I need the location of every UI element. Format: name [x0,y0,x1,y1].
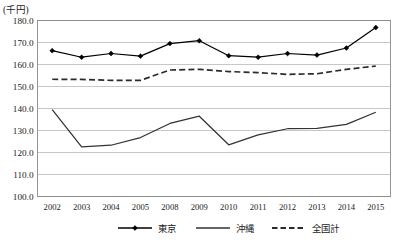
x-axis-tick-label: 2005 [132,202,149,212]
x-axis-tick-label: 2011 [250,202,267,212]
data-point-marker [256,55,261,60]
y-axis-tick-label: 120.0 [13,148,34,158]
y-axis-tick-label: 170.0 [13,38,34,48]
y-axis-tick-label: 100.0 [13,192,34,202]
data-point-marker [50,48,55,53]
x-axis-tick-label: 2015 [367,202,384,212]
x-axis-tick-label: 2014 [338,202,356,212]
data-point-marker [79,55,84,60]
x-axis-tick-label: 2009 [191,202,208,212]
line-chart: (千円) 100.0110.0120.0130.0140.0150.0160.0… [0,0,398,242]
legend-item-label: 全国計 [312,223,339,234]
data-series-layer [50,25,378,147]
data-point-marker [226,53,231,58]
y-axis-tick-label: 180.0 [13,16,34,26]
legend-item-label: 東京 [158,223,176,234]
x-axis-tick-label: 2013 [308,202,325,212]
chart-plot-area: 100.0110.0120.0130.0140.0150.0160.0170.0… [0,0,398,242]
data-point-marker [285,51,290,56]
data-point-marker [315,53,320,58]
y-axis-tick-label: 160.0 [13,60,34,70]
legend-item-label: 沖縄 [236,223,255,234]
y-axis-tick-label: 140.0 [13,104,34,114]
x-axis-tick-labels: 2002200320042005200820092010201120122013… [44,202,385,212]
data-point-marker [167,41,172,46]
y-axis-tick-label: 130.0 [13,126,34,136]
y-axis-tick-label: 150.0 [13,82,34,92]
data-point-marker [138,54,143,59]
legend-marker-swatch [133,226,138,231]
data-point-marker [109,51,114,56]
x-axis-tick-label: 2004 [102,202,120,212]
x-axis-tick-label: 2012 [279,202,296,212]
x-axis-tick-label: 2010 [220,202,237,212]
chart-legend: 東京沖縄全国計 [118,223,339,234]
x-axis-tick-label: 2002 [44,202,61,212]
x-axis-tick-label: 2003 [73,202,90,212]
y-axis-tick-label: 110.0 [13,170,34,180]
series-line [52,66,376,80]
x-axis-tick-label: 2008 [161,202,178,212]
y-axis-tick-labels: 100.0110.0120.0130.0140.0150.0160.0170.0… [13,16,34,202]
gridlines [38,21,391,197]
series-line [52,110,376,147]
